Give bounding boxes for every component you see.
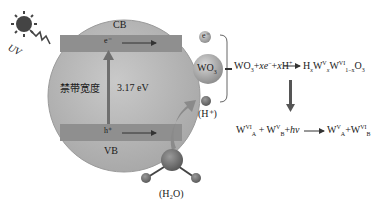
- electron-particle-label: e⁻: [202, 31, 210, 40]
- water-label: (H₂O): [159, 188, 184, 199]
- equation-1: WO3+xe−+xH+: [234, 60, 292, 71]
- hole-label: h⁺: [104, 126, 112, 135]
- equation-2: WVIA + WVB+hν: [236, 124, 300, 135]
- cb-label: CB: [113, 19, 126, 30]
- bandgap-label: 禁带宽度: [60, 80, 100, 95]
- uv-ray-icon: [30, 30, 50, 44]
- equation-2-product: WVA+WVIB: [327, 124, 371, 135]
- proton-particle: [201, 96, 211, 106]
- proton-label: (H⁺): [198, 108, 217, 119]
- conduction-band: [60, 35, 182, 52]
- electron-label: e⁻: [104, 36, 112, 45]
- diagram-graphics: [0, 0, 383, 206]
- vb-label: VB: [104, 145, 118, 156]
- wo3-particle-label: WO3: [197, 62, 217, 73]
- equation-1-product: HxWVxWVI1−xO3: [303, 60, 365, 71]
- bandgap-value: 3.17 eV: [117, 82, 149, 93]
- valence-band: [60, 124, 182, 141]
